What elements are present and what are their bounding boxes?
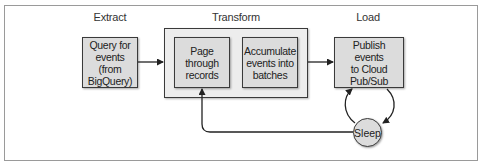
edge-publish-to-sleep [383, 89, 394, 123]
node-sleep-label: Sleep [354, 127, 381, 139]
edges-layer [0, 0, 490, 168]
edge-sleep-to-page [202, 89, 353, 132]
node-sleep: Sleep [353, 118, 382, 147]
edge-sleep-to-publish [345, 89, 355, 123]
